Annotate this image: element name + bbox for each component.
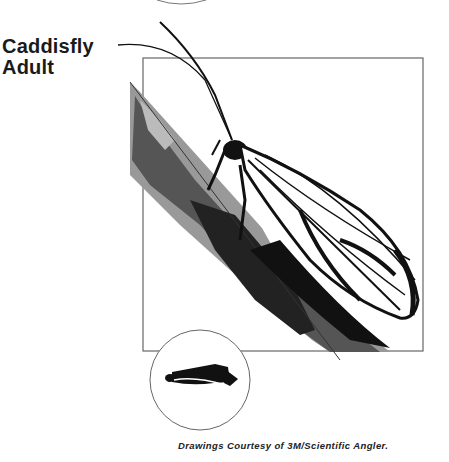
caddisfly-illustration: [0, 0, 449, 462]
top-circle-arc: [157, 0, 206, 4]
figure-caption: Drawings Courtesy of 3M/Scientific Angle…: [178, 440, 388, 451]
antenna: [160, 22, 232, 140]
